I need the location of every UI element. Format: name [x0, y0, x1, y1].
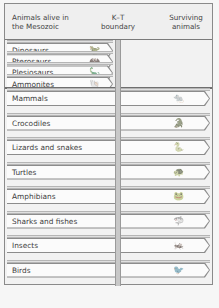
crocodile-icon: 🐊	[169, 118, 187, 129]
header-mesozoic: Animals alive in the Mesozoic	[12, 13, 69, 31]
shark-icon: 🦈	[169, 216, 187, 227]
row-label: Birds	[12, 265, 31, 276]
header-kt-line1: K–T	[100, 13, 136, 22]
row-label: Amphibians	[12, 191, 56, 202]
header-mesozoic-line1: Animals alive in	[12, 13, 69, 22]
surviving-row: Mammals🐀	[7, 91, 210, 106]
surviving-row: Birds🐦	[7, 263, 210, 278]
row-label: Sharks and fishes	[12, 216, 77, 227]
header-kt-line2: boundary	[100, 22, 136, 31]
header-surviving: Surviving animals	[165, 13, 207, 31]
insect-icon: 🦗	[169, 240, 187, 251]
turtle-icon: 🐢	[169, 167, 187, 178]
header-surviving-line2: animals	[165, 22, 207, 31]
header-kt-boundary: K–T boundary	[100, 13, 136, 31]
surviving-row: Insects🦗	[7, 238, 210, 253]
header-mesozoic-line2: the Mesozoic	[12, 22, 69, 31]
diagram-frame: Animals alive in the Mesozoic K–T bounda…	[4, 3, 213, 285]
surviving-row: Amphibians🐸	[7, 189, 210, 204]
snake-icon: 🐍	[169, 142, 187, 153]
surviving-row: Crocodiles🐊	[7, 116, 210, 131]
row-label: Insects	[12, 240, 38, 251]
surviving-row: Sharks and fishes🦈	[7, 214, 210, 229]
row-label: Turtles	[12, 167, 36, 178]
surviving-row: Lizards and snakes🐍	[7, 140, 210, 155]
frog-icon: 🐸	[169, 191, 187, 202]
surviving-row: Turtles🐢	[7, 165, 210, 180]
kt-boundary-bar	[115, 40, 121, 286]
header-row: Animals alive in the Mesozoic K–T bounda…	[5, 4, 212, 40]
row-label: Mammals	[12, 93, 48, 104]
row-label: Crocodiles	[12, 118, 50, 129]
mammal-icon: 🐀	[169, 93, 187, 104]
header-surviving-line1: Surviving	[165, 13, 207, 22]
bird-icon: 🐦	[169, 265, 187, 276]
row-label: Lizards and snakes	[12, 142, 82, 153]
